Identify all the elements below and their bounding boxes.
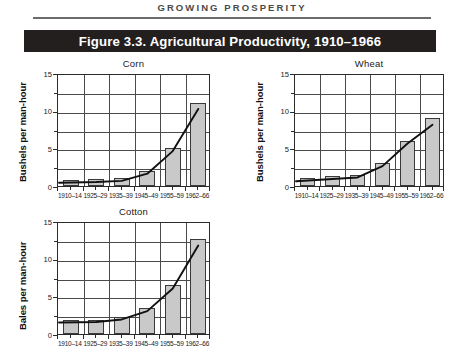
gridline-vertical [370,75,371,186]
gridline-vertical [160,223,161,334]
x-tick-mark-minor [197,335,198,338]
gridline-vertical [109,75,110,186]
x-tick-mark [369,187,370,191]
bar [139,171,155,186]
x-tick-mark-minor [307,187,308,190]
gridline-vertical [135,223,136,334]
chart-title-corn: Corn [57,58,210,69]
y-tick-label: 0 [36,331,52,340]
chart-panel-corn: CornBushels per man-hour0510151910–14192… [0,58,228,203]
y-tick-mark [53,297,57,298]
x-tick-mark-minor [95,187,96,190]
y-tick-mark [53,74,57,75]
y-tick-mark-minor [291,131,294,132]
y-tick-mark-minor [54,241,57,242]
y-tick-label: 15 [36,70,52,79]
gridline-vertical [84,223,85,334]
y-tick-mark [290,112,294,113]
x-tick-mark-minor [146,187,147,190]
y-tick-label: 10 [36,107,52,116]
y-tick-label: 15 [273,70,289,79]
y-tick-mark-minor [54,316,57,317]
y-axis-label-corn: Bushels per man-hour [17,82,28,182]
x-tick-mark [159,187,160,191]
x-tick-mark [209,335,210,339]
plot-area-wheat [294,74,444,187]
y-tick-label: 15 [36,218,52,227]
y-tick-mark-minor [54,168,57,169]
x-tick-mark [419,187,420,191]
x-tick-mark-minor [382,187,383,190]
bar [139,308,155,334]
y-tick-label: 0 [273,183,289,192]
y-tick-label: 5 [36,293,52,302]
x-tick-mark [159,335,160,339]
y-tick-mark-minor [54,93,57,94]
y-tick-label: 5 [36,145,52,154]
chart-title-wheat: Wheat [294,58,444,69]
gridline-vertical [186,223,187,334]
plot-area-corn [57,74,210,187]
gridline-vertical [160,75,161,186]
x-tick-mark-minor [70,187,71,190]
x-tick-mark-minor [146,335,147,338]
x-tick-mark [294,187,295,191]
x-tick-mark [57,187,58,191]
chart-panel-cotton: CottonBales per man-hour0510151910–14192… [0,206,228,356]
gridline-vertical [109,223,110,334]
x-tick-mark-minor [197,187,198,190]
y-tick-mark [290,149,294,150]
gridline-vertical [84,75,85,186]
bar [88,320,104,334]
x-tick-mark [319,187,320,191]
x-tick-label: 1962–66 [179,192,216,199]
x-tick-mark [134,335,135,339]
y-tick-mark-minor [54,131,57,132]
y-axis-label-cotton: Bales per man-hour [17,242,28,330]
gridline-vertical [345,75,346,186]
chart-panel-wheat: WheatBushels per man-hour0510151910–1419… [232,58,464,203]
y-tick-label: 5 [273,145,289,154]
gridline-vertical [395,75,396,186]
bar [63,320,79,334]
x-tick-mark-minor [432,187,433,190]
bar [300,178,316,186]
y-tick-mark-minor [291,93,294,94]
y-tick-mark [53,149,57,150]
x-tick-mark [108,335,109,339]
y-tick-mark-minor [291,168,294,169]
x-tick-mark [344,187,345,191]
x-tick-mark-minor [172,335,173,338]
chart-title-cotton: Cotton [57,206,210,217]
figure-title: Figure 3.3. Agricultural Productivity, 1… [79,34,382,49]
gridline-vertical [186,75,187,186]
bar [375,163,391,186]
y-tick-mark [290,74,294,75]
x-tick-mark [185,187,186,191]
bar [165,285,181,334]
bar [190,103,206,186]
x-tick-mark-minor [172,187,173,190]
x-tick-label: 1962–66 [179,340,216,347]
x-tick-mark-minor [407,187,408,190]
bar [350,175,366,186]
bar [190,239,206,334]
y-tick-label: 0 [36,183,52,192]
gridline-vertical [135,75,136,186]
x-tick-mark [83,335,84,339]
y-tick-mark [53,112,57,113]
x-tick-label: 1962–66 [414,192,450,199]
gridline-vertical [320,75,321,186]
x-tick-mark [185,335,186,339]
x-tick-mark [443,187,444,191]
bar [88,179,104,186]
figure-title-bar: Figure 3.3. Agricultural Productivity, 1… [24,30,436,52]
x-tick-mark [209,187,210,191]
x-tick-mark-minor [332,187,333,190]
x-tick-mark [83,187,84,191]
plot-area-cotton [57,222,210,335]
x-tick-mark [394,187,395,191]
x-tick-mark [57,335,58,339]
bar [114,317,130,334]
bar [400,141,416,186]
